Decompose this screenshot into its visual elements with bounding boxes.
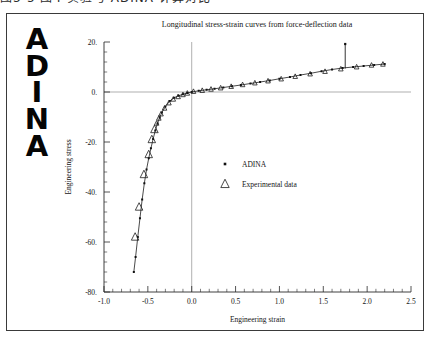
- series-adina-marker-4: [141, 199, 143, 201]
- x-tick-label-2: 0.0: [187, 297, 197, 306]
- x-tick-label-5: 1.5: [319, 297, 329, 306]
- series-adina-marker-3: [139, 217, 141, 219]
- x-tick-label-6: 2.0: [362, 297, 372, 306]
- series-adina-marker-32: [299, 74, 301, 76]
- x-tick-label-3: 0.5: [231, 297, 241, 306]
- series-adina-marker-23: [214, 88, 216, 90]
- series-adina-marker-5: [143, 182, 145, 184]
- series-adina-marker-37: [352, 66, 354, 68]
- legend-label-experimental: Experimental data: [242, 180, 297, 189]
- y-tick-label-0: 20.: [88, 38, 98, 47]
- series-adina-marker-21: [198, 90, 200, 92]
- x-tick-label-1: -0.5: [142, 297, 154, 306]
- series-adina-marker-1: [135, 256, 137, 258]
- legend-label-adina: ADINA: [242, 160, 267, 169]
- series-adina-marker-6: [146, 169, 148, 171]
- y-axis-label: Engineering stress: [64, 139, 73, 194]
- series-experimental-marker-4: [148, 135, 156, 142]
- series-experimental-marker-5: [151, 125, 159, 132]
- x-tick-label-4: 1.0: [275, 297, 285, 306]
- annotation-spike-cap: [344, 43, 346, 45]
- series-adina-marker-28: [259, 81, 261, 83]
- series-adina-marker-34: [321, 70, 323, 72]
- top-caption-text: 图3-5 图4 实验与 ADINA 计算对比: [0, 0, 432, 4]
- series-adina-marker-8: [150, 147, 152, 149]
- legend-marker-adina: [224, 163, 227, 166]
- series-adina-marker-0: [133, 271, 135, 273]
- y-tick-label-1: 0.: [91, 88, 97, 97]
- series-adina-marker-27: [249, 83, 251, 85]
- chart-svg: -1.0-0.50.00.51.01.52.02.520.0.-20.-40.-…: [7, 14, 425, 332]
- x-tick-label-7: 2.5: [406, 297, 416, 306]
- x-axis-label: Engineering strain: [230, 315, 285, 324]
- y-tick-label-5: -80.: [85, 288, 97, 297]
- series-adina-marker-22: [206, 89, 208, 91]
- series-adina-marker-10: [154, 130, 156, 132]
- y-tick-label-3: -40.: [85, 188, 97, 197]
- plot-area: Longitudinal stress-strain curves from f…: [7, 14, 425, 332]
- x-tick-label-0: -1.0: [98, 297, 110, 306]
- top-caption: 图3-5 图4 实验与 ADINA 计算对比: [0, 0, 432, 11]
- y-tick-label-2: -20.: [85, 138, 97, 147]
- y-tick-label-4: -60.: [85, 238, 97, 247]
- legend-marker-experimental: [221, 179, 229, 187]
- series-adina-marker-24: [222, 87, 224, 89]
- figure-frame: A D I N A Longitudinal stress-strain cur…: [6, 13, 424, 331]
- series-adina-marker-31: [289, 76, 291, 78]
- series-adina-marker-38: [363, 65, 365, 67]
- series-adina-marker-35: [331, 69, 333, 71]
